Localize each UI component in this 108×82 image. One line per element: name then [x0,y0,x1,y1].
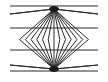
ray-line [25,9,54,69]
ray-line [54,9,83,69]
bottom-convergence-point [49,66,59,72]
ray-line [10,65,54,69]
radiating-lines [10,9,98,69]
illusion-figure [0,0,108,82]
top-convergence-point [49,6,59,12]
ray-line [54,9,98,14]
ray-line [54,65,98,69]
ray-line [10,9,54,14]
